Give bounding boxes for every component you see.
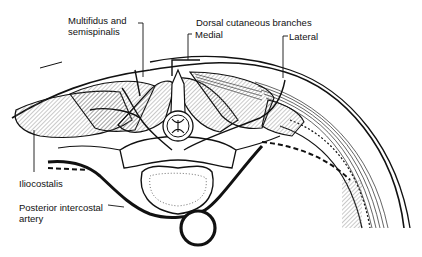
label-lateral: Lateral xyxy=(289,31,318,42)
anatomy-diagram: Multifidus and semispinalis Dorsal cutan… xyxy=(0,0,422,257)
label-dorsal-cutaneous-branches: Dorsal cutaneous branches xyxy=(196,17,312,28)
label-medial: Medial xyxy=(195,29,223,40)
label-multifidus: Multifidus and semispinalis xyxy=(68,15,127,37)
pleura-line-left xyxy=(48,168,88,170)
aorta xyxy=(181,211,215,245)
label-posterior-intercostal-artery: Posterior intercostal artery xyxy=(19,202,103,224)
label-iliocostalis: Iliocostalis xyxy=(19,178,63,189)
